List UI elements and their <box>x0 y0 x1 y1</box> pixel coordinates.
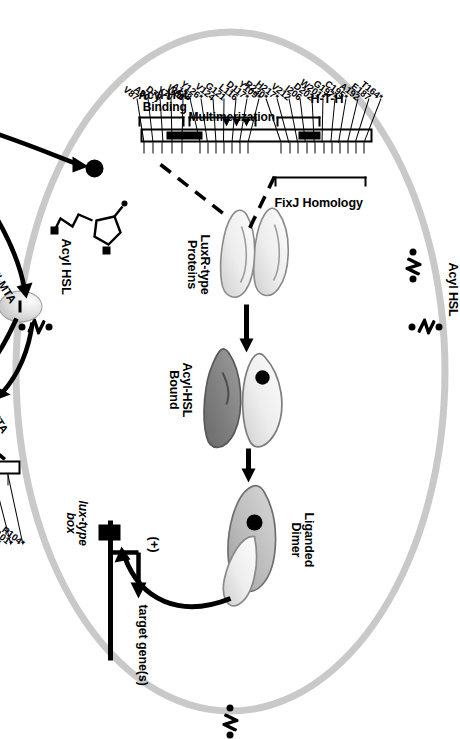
acyl-hsl-product-label: Acyl HSL <box>58 238 72 294</box>
acyl-hsl-bound-text: Acyl-HSL Bound <box>166 362 193 417</box>
fixj-homology-label: FixJ Homology <box>274 196 362 209</box>
hth-label: H-T-H <box>310 92 343 105</box>
synthase-domain-bar <box>0 460 20 474</box>
hth-bracket <box>276 116 320 126</box>
acyl-hsl-molecule-right <box>217 704 243 738</box>
mta-release-product-label: 5'-MTA <box>0 398 9 435</box>
target-gene-label: target gene(s) <box>135 604 148 685</box>
luxr-proteins-label: LuxR-type Proteins <box>184 234 210 294</box>
quorum-sensing-diagram: Acyl HSL <box>0 0 460 739</box>
multimerization-label: Multimerization <box>188 110 275 122</box>
acyl-hsl-molecule <box>408 313 442 339</box>
acyl-hsl-bound-label: Acyl-HSL Bound <box>166 362 192 417</box>
figure-page: Acyl HSL <box>0 0 460 739</box>
acyl-hsl-binding-label: Acyl-HSL Binding <box>138 88 191 113</box>
luxr-hth-block <box>298 131 320 139</box>
liganded-dimer-text: Liganded Dimer <box>288 512 315 567</box>
luxr-proteins-text: LuxR-type Proteins <box>184 234 211 294</box>
lux-type-box-text: lux-type box <box>63 500 89 545</box>
acyl-hsl-molecule-extracellular <box>400 248 426 282</box>
acyl-hsl-binding-bracket <box>138 116 184 126</box>
lux-type-box-label: lux-type box <box>63 500 88 545</box>
activation-plus-label: (+) <box>146 536 160 552</box>
extracellular-acyl-hsl-label: Acyl HSL <box>445 262 458 316</box>
fixj-bracket <box>274 176 366 186</box>
liganded-dimer-label: Liganded Dimer <box>288 512 314 567</box>
acyl-hsl-binding-text: Acyl-HSL Binding <box>138 87 191 113</box>
